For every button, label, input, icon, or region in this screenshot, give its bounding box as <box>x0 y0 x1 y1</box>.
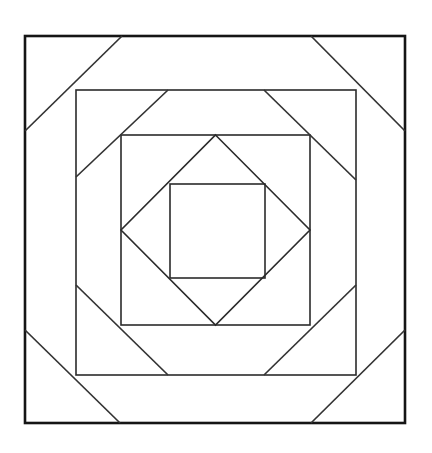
concentric-squares-diagram <box>0 0 432 453</box>
figure-background <box>0 0 432 453</box>
figure-canvas <box>0 0 432 453</box>
